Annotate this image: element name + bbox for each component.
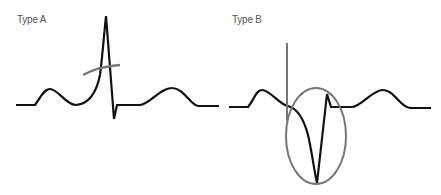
type-b-trace bbox=[229, 90, 431, 183]
type-a-waveform bbox=[16, 16, 219, 119]
type-b-waveform bbox=[229, 43, 431, 184]
type-a-trace bbox=[16, 16, 219, 119]
type-b-highlight-ellipse bbox=[286, 88, 346, 184]
ecg-diagram bbox=[0, 0, 441, 195]
